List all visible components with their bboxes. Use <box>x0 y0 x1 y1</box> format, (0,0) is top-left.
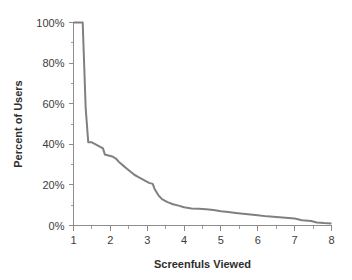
y-tick-label: 40% <box>42 138 64 150</box>
x-tick-label: 3 <box>144 234 150 246</box>
chart-canvas: 0%20%40%60%80%100% 12345678 Percent of U… <box>0 0 352 280</box>
y-tick-label: 20% <box>42 179 64 191</box>
y-tick-label: 0% <box>49 220 65 232</box>
x-tick-label: 7 <box>292 234 298 246</box>
chart-container: 0%20%40%60%80%100% 12345678 Percent of U… <box>0 0 352 280</box>
x-tick-label: 1 <box>70 234 76 246</box>
x-tick-label: 2 <box>107 234 113 246</box>
x-axis-title: Screenfuls Viewed <box>154 258 251 270</box>
x-tick-label: 6 <box>255 234 261 246</box>
x-tick-label: 5 <box>218 234 224 246</box>
y-tick-label: 60% <box>42 98 64 110</box>
x-tick-label: 4 <box>181 234 187 246</box>
x-tick-label: 8 <box>328 234 334 246</box>
y-axis-title: Percent of Users <box>12 80 24 167</box>
y-tick-label: 80% <box>42 57 64 69</box>
y-tick-label: 100% <box>36 17 64 29</box>
